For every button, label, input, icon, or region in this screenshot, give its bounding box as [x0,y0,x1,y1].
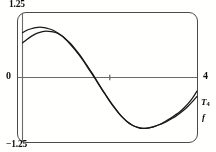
plot-canvas [0,0,216,152]
chart-figure: 1.25 −1.25 0 4 T4 f [0,0,216,152]
origin-label: 0 [6,70,11,81]
y-axis-min-label: −1.25 [6,139,27,149]
curve-label-t4-subscript: 4 [207,100,210,107]
x-axis-max-label: 4 [203,70,208,81]
y-axis-max-label: 1.25 [9,0,25,9]
curve-label-f: f [202,112,205,122]
axis-lines [18,13,197,142]
curve-label-t4: T4 [201,97,210,107]
